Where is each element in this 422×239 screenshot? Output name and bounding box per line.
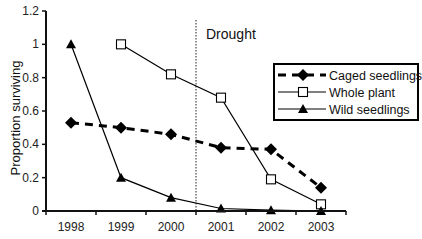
data-point-wild-seedlings — [116, 173, 126, 182]
drought-annotation: Drought — [206, 26, 256, 42]
x-tick-label: 2000 — [158, 220, 185, 234]
data-point-wild-seedlings — [166, 193, 176, 202]
x-tick-label: 2002 — [258, 220, 285, 234]
data-point-caged-seedlings — [215, 142, 227, 154]
data-point-whole-plant — [217, 93, 226, 102]
y-tick-label: 0.6 — [22, 104, 39, 118]
legend-label: Wild seedlings — [329, 103, 410, 117]
data-point-caged-seedlings — [265, 143, 277, 155]
y-tick-label: 1.2 — [22, 4, 39, 18]
legend: Caged seedlingsWhole plantWild seedlings — [274, 64, 422, 120]
survival-chart: 00.20.40.60.811.219981999200020012002200… — [0, 0, 422, 239]
y-tick-label: 0.2 — [22, 171, 39, 185]
data-point-wild-seedlings — [66, 39, 76, 48]
data-point-whole-plant — [267, 175, 276, 184]
y-tick-label: 0 — [32, 204, 39, 218]
legend-label: Caged seedlings — [329, 69, 422, 83]
y-tick-label: 0.8 — [22, 71, 39, 85]
y-axis-title: Proportion surviving — [8, 61, 23, 176]
legend-marker — [299, 88, 308, 97]
data-point-caged-seedlings — [115, 122, 127, 134]
y-tick-label: 0.4 — [22, 137, 39, 151]
x-tick-label: 1998 — [58, 220, 85, 234]
x-tick-label: 2003 — [308, 220, 335, 234]
x-tick-label: 2001 — [208, 220, 235, 234]
legend-label: Whole plant — [329, 86, 396, 100]
y-tick-label: 1 — [32, 37, 39, 51]
data-point-caged-seedlings — [65, 117, 77, 129]
data-point-caged-seedlings — [165, 128, 177, 140]
data-point-whole-plant — [167, 70, 176, 79]
data-point-whole-plant — [117, 40, 126, 49]
x-tick-label: 1999 — [108, 220, 135, 234]
